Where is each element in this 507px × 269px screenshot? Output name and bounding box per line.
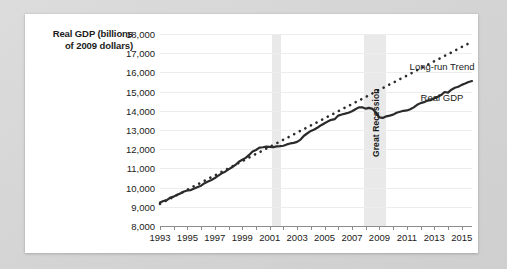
x-tick-2012 [421, 226, 422, 230]
y-axis-title-line1: Real GDP (billions [53, 28, 133, 39]
y-tick-label-18000: 18,000 [126, 29, 155, 40]
x-tick-1998 [229, 226, 230, 230]
x-tick-label-1993: 1993 [149, 232, 170, 243]
x-tick-label-2013: 2013 [424, 232, 445, 243]
plot-area: 8,0009,00010,00011,00012,00013,00014,000… [160, 34, 472, 226]
great-recession-label: Great Recession [371, 88, 381, 157]
y-tick-label-16000: 16,000 [126, 67, 155, 78]
y-tick-label-9000: 9,000 [131, 201, 155, 212]
x-tick-label-2009: 2009 [369, 232, 390, 243]
x-tick-2000 [256, 226, 257, 230]
y-tick-label-12000: 12,000 [126, 144, 155, 155]
x-tick-label-1995: 1995 [177, 232, 198, 243]
y-tick-label-13000: 13,000 [126, 125, 155, 136]
x-tick-2002 [283, 226, 284, 230]
x-axis-line [160, 226, 472, 227]
x-tick-1999 [242, 226, 243, 230]
x-tick-label-2007: 2007 [341, 232, 362, 243]
x-tick-2004 [311, 226, 312, 230]
x-tick-2014 [448, 226, 449, 230]
x-tick-label-2005: 2005 [314, 232, 335, 243]
y-axis-title: Real GDP (billions of 2009 dollars) [28, 28, 133, 52]
long-run-trend-label: Long-run Trend [410, 61, 475, 72]
x-tick-2015 [462, 226, 463, 230]
figure-card: Real GDP (billions of 2009 dollars) 8,00… [25, 14, 478, 253]
x-tick-label-2003: 2003 [287, 232, 308, 243]
x-tick-label-2001: 2001 [259, 232, 280, 243]
y-tick-label-10000: 10,000 [126, 182, 155, 193]
x-tick-2007 [352, 226, 353, 230]
y-tick-label-14000: 14,000 [126, 105, 155, 116]
page-background: Real GDP (billions of 2009 dollars) 8,00… [0, 0, 507, 269]
x-tick-2013 [434, 226, 435, 230]
x-tick-2001 [270, 226, 271, 230]
y-tick-label-8000: 8,000 [131, 221, 155, 232]
x-tick-2005 [325, 226, 326, 230]
y-tick-label-11000: 11,000 [127, 163, 155, 174]
x-tick-label-2015: 2015 [451, 232, 472, 243]
y-tick-label-17000: 17,000 [126, 48, 155, 59]
y-axis-title-line2: of 2009 dollars) [65, 40, 133, 51]
x-tick-2011 [407, 226, 408, 230]
x-tick-label-2011: 2011 [397, 232, 417, 243]
real-gdp-label: Real GDP [421, 92, 464, 103]
x-tick-1997 [215, 226, 216, 230]
x-tick-2006 [338, 226, 339, 230]
x-tick-label-1999: 1999 [232, 232, 253, 243]
x-tick-2010 [393, 226, 394, 230]
y-tick-label-15000: 15,000 [126, 86, 155, 97]
x-tick-1995 [187, 226, 188, 230]
x-tick-1993 [160, 226, 161, 230]
x-tick-1994 [174, 226, 175, 230]
x-tick-label-1997: 1997 [204, 232, 225, 243]
x-tick-1996 [201, 226, 202, 230]
x-tick-2003 [297, 226, 298, 230]
x-tick-2008 [366, 226, 367, 230]
x-tick-2009 [379, 226, 380, 230]
